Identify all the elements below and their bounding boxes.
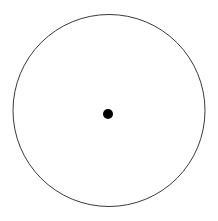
figure-canvas: [0, 0, 218, 221]
center-point-dot: [103, 109, 113, 119]
circle-diagram-svg: [0, 0, 218, 221]
